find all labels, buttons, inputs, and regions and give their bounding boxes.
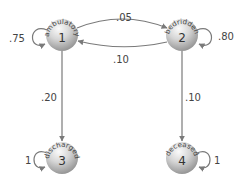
node-bedridden[interactable]: bedridden 2 bbox=[163, 18, 200, 51]
node-discharged[interactable]: discharged 3 bbox=[43, 141, 81, 174]
edge-label-1-self: .75 bbox=[9, 33, 25, 44]
edge-label-3-self: 1 bbox=[25, 155, 31, 166]
edge-1-self-loop bbox=[32, 29, 47, 46]
edge-label-1-to-2: .05 bbox=[116, 12, 132, 23]
edges: .05 .10 .75 .80 .20 .10 1 1 bbox=[9, 12, 234, 168]
node-ambulatory[interactable]: ambulatory 1 bbox=[43, 18, 81, 51]
node-number: 3 bbox=[58, 154, 66, 168]
node-number: 2 bbox=[178, 31, 186, 45]
edge-label-2-self: .80 bbox=[218, 31, 234, 42]
node-number: 1 bbox=[58, 31, 66, 45]
state-diagram: .05 .10 .75 .80 .20 .10 1 1 ambulatory 1… bbox=[0, 0, 246, 180]
edge-label-1-to-3: .20 bbox=[41, 92, 57, 103]
node-deceased[interactable]: deceased 4 bbox=[164, 141, 200, 174]
edge-2-to-1 bbox=[78, 41, 167, 47]
edge-label-2-to-4: .10 bbox=[185, 92, 201, 103]
edge-label-4-self: 1 bbox=[214, 155, 220, 166]
node-number: 4 bbox=[178, 154, 186, 168]
edge-label-2-to-1: .10 bbox=[113, 54, 129, 65]
